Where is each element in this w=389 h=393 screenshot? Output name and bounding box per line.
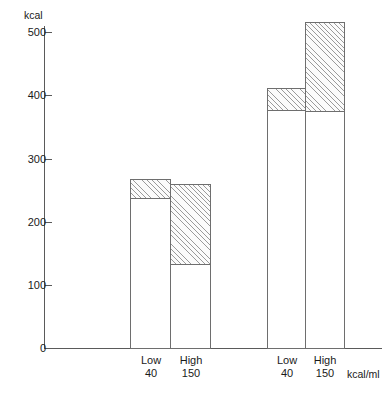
x-label-group1-high: High 150 <box>165 354 217 379</box>
y-tick-200 <box>45 222 52 223</box>
y-tick-label-400: 400 <box>6 90 46 101</box>
y-tick-0 <box>45 348 52 349</box>
y-tick-100 <box>45 285 52 286</box>
bar-segment-hatched <box>268 89 305 111</box>
y-tick-400 <box>45 95 52 96</box>
x-axis-unit-label: kcal/ml <box>347 368 380 380</box>
y-tick-300 <box>45 159 52 160</box>
bar-group2-low <box>267 88 306 349</box>
x-label-group2-high: High 150 <box>299 354 351 379</box>
bar-segment-hatched <box>306 23 344 112</box>
bar-segment-base <box>268 111 305 348</box>
bar-group1-high <box>170 184 211 349</box>
bar-segment-base <box>131 199 170 348</box>
bar-segment-base <box>171 265 210 348</box>
y-tick-label-200: 200 <box>6 217 46 228</box>
y-tick-label-500: 500 <box>6 27 46 38</box>
y-tick-500 <box>45 32 52 33</box>
x-label-value: 150 <box>165 367 217 380</box>
bar-segment-hatched <box>171 185 210 265</box>
bar-group1-low <box>130 179 171 349</box>
y-tick-label-0: 0 <box>6 343 46 354</box>
bar-segment-base <box>306 112 344 348</box>
bar-chart-plot: kcal 500 400 300 200 100 0 <box>0 0 389 393</box>
x-label-value: 150 <box>299 367 351 380</box>
y-axis-title: kcal <box>24 10 43 21</box>
y-tick-label-100: 100 <box>6 280 46 291</box>
x-label-name: High <box>165 354 217 367</box>
x-label-name: High <box>299 354 351 367</box>
bar-segment-hatched <box>131 180 170 199</box>
y-axis-line <box>44 26 45 349</box>
bar-group2-high <box>305 22 345 349</box>
figure: kcal 500 400 300 200 100 0 <box>0 0 389 393</box>
y-tick-label-300: 300 <box>6 154 46 165</box>
